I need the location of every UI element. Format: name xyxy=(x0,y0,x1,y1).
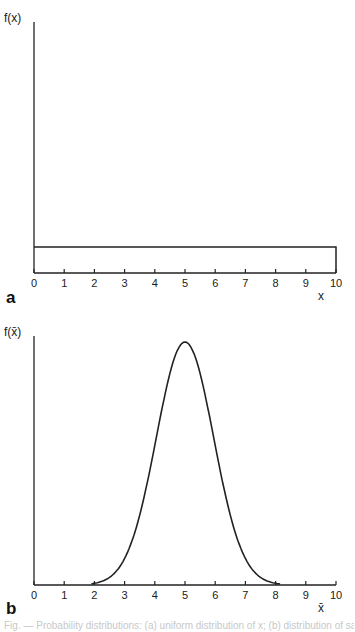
figure: f(x) 012345678910 x a f(x̄) 012345678910… xyxy=(0,0,355,632)
x-tick-label: 1 xyxy=(61,277,67,289)
x-tick-label: 6 xyxy=(212,589,218,601)
panel-b: f(x̄) 012345678910 x̄ b xyxy=(4,325,342,618)
panel-a-ylabel: f(x) xyxy=(4,11,21,25)
x-tick-label: 5 xyxy=(182,277,188,289)
x-tick-label: 2 xyxy=(91,277,97,289)
x-tick-label: 4 xyxy=(152,277,158,289)
x-tick-label: 6 xyxy=(212,277,218,289)
x-tick-label: 3 xyxy=(122,277,128,289)
x-tick-label: 8 xyxy=(273,277,279,289)
normal-density-curve xyxy=(91,342,280,584)
x-tick-label: 10 xyxy=(330,277,342,289)
x-tick-label: 4 xyxy=(152,589,158,601)
x-tick-label: 9 xyxy=(303,277,309,289)
x-tick-label: 3 xyxy=(122,589,128,601)
panel-b-xlabel: x̄ xyxy=(318,601,324,615)
panel-a: f(x) 012345678910 x a xyxy=(4,11,342,307)
x-tick-label: 5 xyxy=(182,589,188,601)
panel-a-x-ticks: 012345678910 xyxy=(31,269,342,289)
panel-a-label: a xyxy=(6,288,16,307)
x-tick-label: 8 xyxy=(273,589,279,601)
x-tick-label: 7 xyxy=(242,277,248,289)
x-tick-label: 10 xyxy=(330,589,342,601)
x-tick-label: 2 xyxy=(91,589,97,601)
x-tick-label: 7 xyxy=(242,589,248,601)
x-tick-label: 0 xyxy=(31,589,37,601)
panel-b-x-ticks: 012345678910 xyxy=(31,581,342,601)
panel-a-xlabel: x xyxy=(318,289,324,303)
panel-b-ylabel: f(x̄) xyxy=(4,325,21,339)
panel-b-label: b xyxy=(6,599,16,618)
x-tick-label: 1 xyxy=(61,589,67,601)
x-tick-label: 0 xyxy=(31,277,37,289)
figure-caption: Fig. — Probability distributions: (a) un… xyxy=(4,620,354,632)
x-tick-label: 9 xyxy=(303,589,309,601)
